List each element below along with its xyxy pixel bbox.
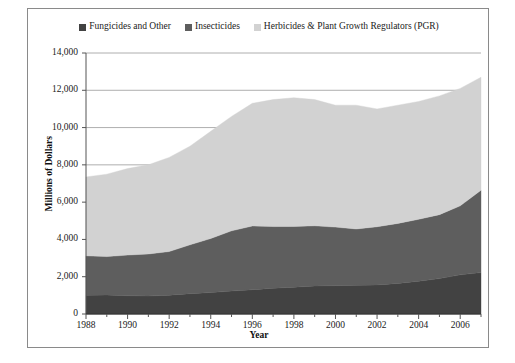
x-tick-label: 1992	[149, 321, 189, 331]
x-tick-label: 1988	[66, 321, 106, 331]
y-tick-label: 4,000	[34, 234, 78, 244]
x-tick-label: 2004	[399, 321, 439, 331]
x-tick-label: 1994	[191, 321, 231, 331]
y-tick-label: 0	[34, 309, 78, 319]
y-tick-label: 10,000	[34, 123, 78, 133]
y-tick-label: 12,000	[34, 85, 78, 95]
x-tick-label: 1990	[108, 321, 148, 331]
y-tick-label: 8,000	[34, 160, 78, 170]
x-tick-label: 2000	[315, 321, 355, 331]
chart-container: Fungicides and Other Insecticides Herbic…	[27, 8, 489, 348]
x-axis-title: Year	[28, 331, 490, 341]
plot-area-wrapper: Millions of Dollars Year 02,0004,0006,00…	[28, 9, 490, 349]
x-tick-label: 2002	[357, 321, 397, 331]
x-tick-label: 2006	[440, 321, 480, 331]
y-tick-label: 6,000	[34, 197, 78, 207]
x-tick-label: 1998	[274, 321, 314, 331]
y-tick-label: 2,000	[34, 272, 78, 282]
y-tick-label: 14,000	[34, 48, 78, 58]
area-chart-svg	[28, 9, 490, 349]
x-tick-label: 1996	[232, 321, 272, 331]
